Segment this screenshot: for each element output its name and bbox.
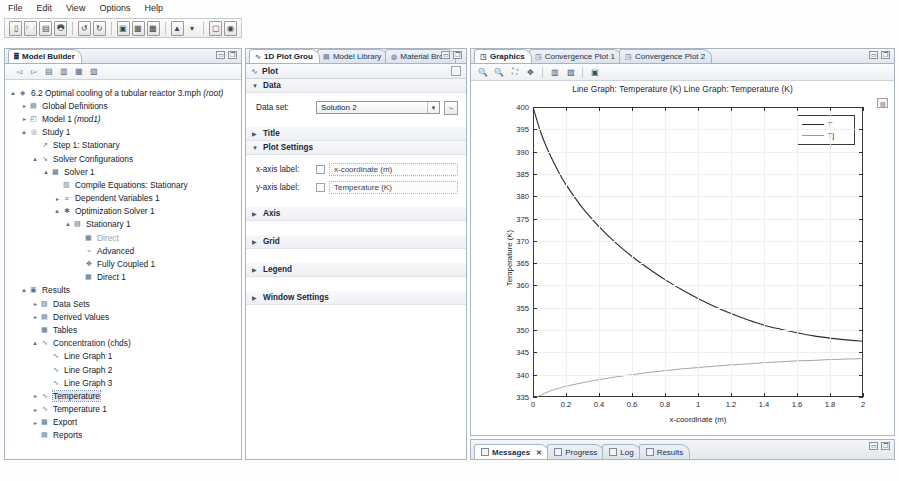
transparency-icon[interactable]: ▥ (548, 66, 561, 79)
y-axis-label-checkbox[interactable] (316, 183, 325, 192)
zoom-out-icon[interactable]: 🔍 (492, 66, 505, 79)
tab-model-library[interactable]: ▤Model Library (317, 49, 388, 63)
tree-item-stationary-1[interactable]: ▲▨Stationary 1 (9, 218, 239, 231)
tab-messages[interactable]: Messages✕ (474, 444, 549, 459)
minimize-icon[interactable]: ▭ (216, 51, 225, 59)
plot-window-icon[interactable]: ▦ (132, 21, 145, 36)
minimize-icon[interactable]: ▭ (869, 51, 878, 59)
tree-item-compile-equations-stationary[interactable]: ▥Compile Equations: Stationary (9, 178, 239, 191)
section-header-title[interactable]: ▶ Title (246, 127, 466, 141)
print-icon[interactable]: 🖶 (54, 21, 67, 36)
section-header-grid[interactable]: ▶ Grid (246, 235, 466, 249)
tree-item-tables[interactable]: ▦Tables (9, 323, 239, 336)
maximize-icon[interactable]: ❐ (881, 51, 890, 59)
close-icon[interactable]: ✕ (536, 445, 542, 460)
tab-graphics[interactable]: ◳Graphics (474, 49, 532, 63)
twisty-collapsed-icon[interactable]: ▸ (20, 115, 28, 122)
dropdown-arrow-icon[interactable]: ▾ (186, 21, 199, 36)
go-to-source-button[interactable]: ⤷ (444, 101, 458, 115)
zoom-in-icon[interactable]: 🔍 (476, 66, 489, 79)
menu-item-file[interactable]: File (8, 3, 23, 13)
twisty-expanded-icon[interactable]: ▲ (9, 90, 17, 96)
plot-corner-icon[interactable]: ▧ (877, 98, 888, 108)
tree-item-line-graph-1[interactable]: ∿Line Graph 1 (9, 350, 239, 363)
show-hidden-icon[interactable]: ▦ (73, 66, 84, 77)
twisty-expanded-icon[interactable]: ▲ (42, 169, 50, 175)
menu-item-edit[interactable]: Edit (37, 3, 53, 13)
x-axis-label-checkbox[interactable] (316, 165, 325, 174)
maximize-icon[interactable]: ❐ (228, 51, 237, 59)
tree-item-concentration-chds[interactable]: ▲∿Concentration (chds) (9, 337, 239, 350)
tree-item-global-definitions[interactable]: ▸▤Global Definitions (9, 99, 239, 112)
tree-item-advanced[interactable]: ⌁Advanced (9, 244, 239, 257)
twisty-expanded-icon[interactable]: ▲ (20, 287, 28, 293)
expand-all-icon[interactable]: ▥ (58, 66, 69, 77)
tree-item-reports[interactable]: ▤Reports (9, 429, 239, 442)
twisty-collapsed-icon[interactable]: ▸ (31, 313, 39, 320)
y-axis-label-input[interactable]: Temperature (K) (329, 181, 458, 194)
help-icon[interactable]: ◉ (224, 21, 237, 36)
section-header-window-settings[interactable]: ▶ Window Settings (246, 291, 466, 305)
tab-log[interactable]: Log (602, 444, 640, 459)
maximize-icon[interactable]: ❐ (453, 51, 462, 59)
section-header-axis[interactable]: ▶ Axis (246, 207, 466, 221)
maximize-icon[interactable]: ❐ (881, 442, 890, 450)
twisty-expanded-icon[interactable]: ▲ (31, 156, 39, 162)
tree-item-results[interactable]: ▲▣Results (9, 284, 239, 297)
compute-icon[interactable]: ▣ (117, 21, 130, 36)
tree-item-6-2-optimal-cooling-of-a-tubular-reactor-3-mph[interactable]: ▲◈6.2 Optimal cooling of a tubular react… (9, 86, 239, 99)
tree-item-temperature-1[interactable]: ▸∿Temperature 1 (9, 403, 239, 416)
menu-item-view[interactable]: View (66, 3, 85, 13)
save-icon[interactable]: ▤ (39, 21, 52, 36)
section-header-data[interactable]: ▼ Data (246, 79, 466, 93)
settings-list-icon[interactable]: ▨ (88, 66, 99, 77)
tree-item-dependent-variables-1[interactable]: ▸≡Dependent Variables 1 (9, 192, 239, 205)
mesh-icon[interactable]: ▲ (171, 21, 184, 36)
tree-item-model-1[interactable]: ▸◰Model 1 (mod1) (9, 112, 239, 125)
redo-icon[interactable]: ↻ (93, 21, 106, 36)
collapse-all-icon[interactable]: ▤ (43, 66, 54, 77)
minimize-icon[interactable]: ▭ (869, 442, 878, 450)
twisty-expanded-icon[interactable]: ▲ (53, 208, 61, 214)
twisty-collapsed-icon[interactable]: ▸ (31, 300, 39, 307)
twisty-collapsed-icon[interactable]: ▸ (53, 195, 61, 202)
scene-light-icon[interactable]: ▨ (564, 66, 577, 79)
dataset-select[interactable]: Solution 2 ▼ (316, 101, 440, 114)
tree-item-fully-coupled-1[interactable]: ✥Fully Coupled 1 (9, 257, 239, 270)
zoom-extents-icon[interactable]: ⛶ (508, 66, 521, 79)
tab-progress[interactable]: Progress (547, 444, 604, 459)
tree-item-solver-configurations[interactable]: ▲↘Solver Configurations (9, 152, 239, 165)
tree-item-line-graph-3[interactable]: ∿Line Graph 3 (9, 376, 239, 389)
tree-item-study-1[interactable]: ▲◎Study 1 (9, 126, 239, 139)
twisty-collapsed-icon[interactable]: ▸ (31, 406, 39, 413)
twisty-collapsed-icon[interactable]: ▸ (31, 419, 39, 426)
tab-model-builder[interactable]: ⌸ Model Builder (8, 49, 82, 63)
menu-item-options[interactable]: Options (99, 3, 130, 13)
twisty-expanded-icon[interactable]: ▲ (20, 129, 28, 135)
tree-item-export[interactable]: ▸▩Export (9, 416, 239, 429)
minimize-icon[interactable]: ▭ (441, 51, 450, 59)
tree-item-data-sets[interactable]: ▸▧Data Sets (9, 297, 239, 310)
twisty-expanded-icon[interactable]: ▲ (64, 221, 72, 227)
tree-item-solver-1[interactable]: ▲▩Solver 1 (9, 165, 239, 178)
tree-item-direct-1[interactable]: ▦Direct 1 (9, 271, 239, 284)
copy-icon[interactable]: ▢ (209, 21, 222, 36)
tree-item-line-graph-2[interactable]: ∿Line Graph 2 (9, 363, 239, 376)
help-icon[interactable] (451, 66, 461, 76)
tab-convergence-plot-2[interactable]: ◳Convergence Plot 2 (619, 49, 712, 63)
twisty-expanded-icon[interactable]: ▲ (31, 340, 39, 346)
forward-arrow-icon[interactable]: ▻ (28, 66, 39, 77)
menu-item-help[interactable]: Help (144, 3, 163, 13)
undo-icon[interactable]: ↺ (78, 21, 91, 36)
table-window-icon[interactable]: ▩ (147, 21, 160, 36)
open-folder-icon[interactable]: 🗁 (24, 21, 37, 36)
twisty-collapsed-icon[interactable]: ▸ (20, 102, 28, 109)
tab-results[interactable]: Results (639, 444, 691, 459)
tab-1d-plot-grou[interactable]: ∿1D Plot Grou (249, 49, 320, 63)
tree-item-derived-values[interactable]: ▸▤Derived Values (9, 310, 239, 323)
tab-convergence-plot-1[interactable]: ◳Convergence Plot 1 (529, 49, 622, 63)
zoom-box-icon[interactable]: ✥ (524, 66, 537, 79)
twisty-collapsed-icon[interactable]: ▸ (31, 392, 39, 399)
tree-item-direct[interactable]: ▦Direct (9, 231, 239, 244)
x-axis-label-input[interactable]: x-coordinate (m) (329, 163, 458, 176)
